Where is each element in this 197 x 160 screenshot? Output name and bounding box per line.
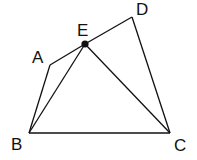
label-e: E [77, 21, 88, 40]
diagram-svg: A B C D E [0, 0, 197, 160]
label-c: C [174, 136, 186, 155]
label-b: B [11, 135, 22, 154]
label-a: A [32, 48, 44, 67]
point-e-marker [81, 40, 88, 47]
segment-ec [85, 44, 170, 133]
segments-group [29, 17, 170, 133]
geometry-diagram: A B C D E [0, 0, 197, 160]
label-d: D [136, 0, 148, 19]
segment-ba [29, 65, 50, 133]
segment-dc [132, 17, 170, 133]
segment-ed [85, 17, 132, 44]
segment-ae [50, 44, 85, 65]
